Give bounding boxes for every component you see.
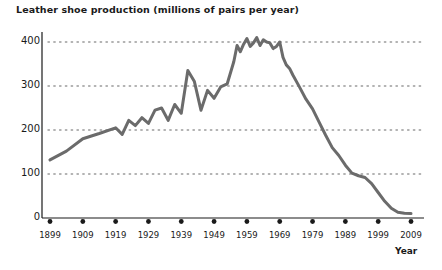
- x-axis-tick-dot: [343, 219, 348, 224]
- x-axis-tick-dot: [179, 219, 184, 224]
- x-axis-tick-dot: [48, 219, 53, 224]
- y-axis-tick-label: 200: [6, 123, 40, 134]
- x-axis-tick-dot: [113, 219, 118, 224]
- xtick-markers-group: [48, 219, 414, 224]
- chart-figure: Leather shoe production (millions of pai…: [0, 0, 442, 270]
- y-axis-tick-label: 100: [6, 167, 40, 178]
- x-axis-tick-dot: [310, 219, 315, 224]
- x-axis-tick-dot: [80, 219, 85, 224]
- y-axis-tick-label: 0: [6, 211, 40, 222]
- x-axis-tick-dot: [409, 219, 414, 224]
- x-axis-tick-label: 2009: [391, 230, 431, 240]
- data-line-group: [50, 38, 411, 214]
- x-axis-tick-dot: [212, 219, 217, 224]
- x-axis-tick-dot: [277, 219, 282, 224]
- x-axis-tick-dot: [376, 219, 381, 224]
- x-axis-tick-dot: [146, 219, 151, 224]
- y-axis-tick-label: 400: [6, 35, 40, 46]
- x-axis-tick-dot: [245, 219, 250, 224]
- x-axis-title: Year: [395, 246, 417, 256]
- gridlines-group: [48, 42, 424, 174]
- data-line-leather-shoe-production: [50, 38, 411, 214]
- y-axis-tick-label: 300: [6, 79, 40, 90]
